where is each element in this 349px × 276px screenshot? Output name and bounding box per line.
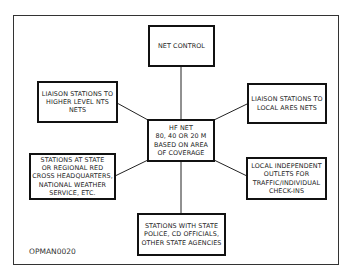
node-hf-net-center: HF NET 80, 40 OR 20 M BASED ON AREA OF C… — [147, 119, 215, 162]
node-net-control: NET CONTROL — [148, 25, 215, 67]
node-liaison-local-ares: LIAISON STATIONS TO LOCAL ARES NETS — [247, 83, 327, 124]
figure-id-label: OPMAN0020 — [29, 247, 76, 256]
node-liaison-higher-nts: LIAISON STATIONS TO HIGHER LEVEL NTS NET… — [37, 81, 118, 123]
node-local-independent-outlets: LOCAL INDEPENDENT OUTLETS FOR TRAFFIC/IN… — [246, 157, 327, 200]
node-state-police-cd: STATIONS WITH STATE POLICE, CD OFFICIALS… — [137, 213, 226, 256]
node-red-cross-weather: STATIONS AT STATE OR REGIONAL RED CROSS … — [29, 153, 116, 200]
